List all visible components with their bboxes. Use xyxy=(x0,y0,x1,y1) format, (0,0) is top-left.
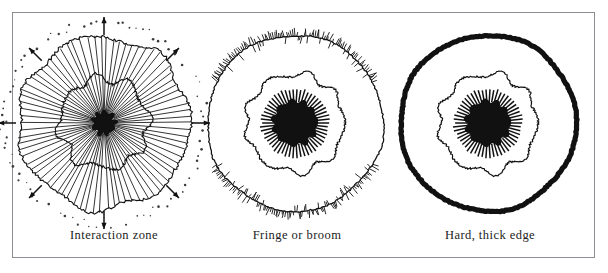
outward-arrow xyxy=(29,48,42,61)
outward-arrow xyxy=(166,185,179,198)
figure-frame: Interaction zoneFringe or broomHard, thi… xyxy=(12,12,595,258)
diagram-hard-thick-edge xyxy=(392,13,588,259)
figure-root: Interaction zoneFringe or broomHard, thi… xyxy=(0,0,608,273)
caption-fringe-or-broom: Fringe or broom xyxy=(199,228,395,243)
panel-fringe-or-broom: Fringe or broom xyxy=(199,13,395,259)
diagram-fringe-or-broom xyxy=(199,13,395,259)
panel-hard-thick-edge: Hard, thick edge xyxy=(392,13,588,259)
panel-interaction-zone: Interaction zone xyxy=(1,13,227,259)
caption-interaction-zone: Interaction zone xyxy=(1,228,227,243)
caption-hard-thick-edge: Hard, thick edge xyxy=(392,228,588,243)
outward-arrow xyxy=(0,120,16,125)
outward-arrow xyxy=(29,185,42,198)
outward-arrow xyxy=(101,211,106,229)
outward-arrow xyxy=(101,17,106,35)
diagram-interaction-zone xyxy=(1,13,227,259)
panel-container: Interaction zoneFringe or broomHard, thi… xyxy=(13,13,596,259)
